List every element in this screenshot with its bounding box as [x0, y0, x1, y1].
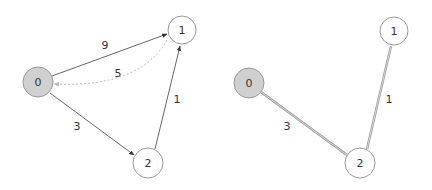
- node-label: 1: [179, 24, 186, 37]
- graph-canvas: 9 5 3 1 0 1 2 3 1 0 1: [0, 0, 432, 190]
- node-2[interactable]: 2: [133, 148, 163, 178]
- node-0[interactable]: 0: [234, 68, 264, 98]
- edge-0-1: [52, 34, 167, 76]
- graph-left: 9 5 3 1 0 1 2: [23, 16, 196, 178]
- node-label: 2: [357, 157, 364, 170]
- node-1[interactable]: 1: [380, 17, 408, 45]
- node-label: 1: [391, 25, 398, 38]
- edge-0-2-tree-inner: [261, 92, 347, 155]
- node-0[interactable]: 0: [23, 67, 53, 97]
- edge-label-1-0: 5: [115, 67, 122, 80]
- node-label: 0: [35, 76, 42, 89]
- edge-label-2-1: 1: [174, 93, 181, 106]
- node-label: 2: [145, 157, 152, 170]
- node-label: 0: [246, 77, 253, 90]
- edge-0-2: [50, 93, 134, 155]
- edge-label-0-2: 3: [284, 120, 291, 133]
- graph-right: 3 1 0 1 2: [234, 17, 408, 178]
- edge-label-0-2: 3: [74, 120, 81, 133]
- node-1[interactable]: 1: [168, 16, 196, 44]
- node-2[interactable]: 2: [345, 148, 375, 178]
- edge-1-0-dotted: [54, 40, 167, 84]
- edge-label-0-1: 9: [102, 39, 109, 52]
- edge-label-2-1: 1: [386, 93, 393, 106]
